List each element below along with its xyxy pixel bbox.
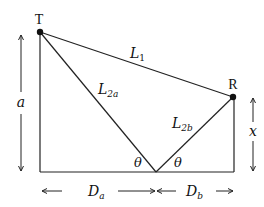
height-a-label: a [17,94,25,110]
dist-a-label: Da [87,183,105,201]
L1-label: L1 [129,45,145,63]
angle-theta-left: θ [134,155,142,170]
transmitter-label: T [35,12,44,27]
angle-theta-right: θ [174,155,182,170]
reflection-diagram: T R L1 L2a L2b θ θ a x Da Db [0,0,264,207]
L2b-label: L2b [171,115,193,133]
dist-b-label: Db [185,183,203,201]
L2a-label: L2a [97,81,118,99]
reflected-path-L2b [156,97,233,172]
direct-path-L1 [40,32,233,97]
transmitter-dot [37,29,43,35]
receiver-label: R [228,77,238,92]
receiver-dot [230,94,236,100]
height-x-label: x [249,123,257,139]
